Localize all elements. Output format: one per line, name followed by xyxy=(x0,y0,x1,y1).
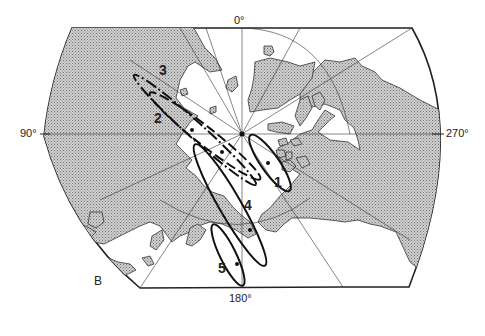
ellipse-label-5: 5 xyxy=(218,260,226,276)
polar-projection-map xyxy=(0,0,485,336)
ellipse-label-1: 1 xyxy=(274,174,282,190)
axis-label-left: 90° xyxy=(20,127,37,139)
ellipse-label-2: 2 xyxy=(154,110,162,126)
ellipse-label-3: 3 xyxy=(159,62,167,78)
axis-label-right: 270° xyxy=(446,127,469,139)
pole-point xyxy=(240,132,245,137)
panel-label: B xyxy=(94,274,102,288)
ellipse-label-4: 4 xyxy=(244,197,252,213)
axis-label-bottom: 180° xyxy=(229,292,252,304)
axis-label-top: 0° xyxy=(234,14,245,26)
